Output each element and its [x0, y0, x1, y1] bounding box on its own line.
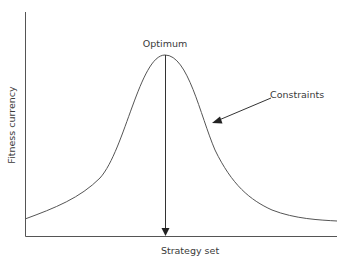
- constraints-label: Constraints: [270, 89, 324, 100]
- y-axis-label: Fitness currency: [6, 86, 17, 164]
- optimum-arrowhead-icon: [162, 228, 170, 236]
- constraints-arrow: [219, 98, 271, 120]
- x-axis-label: Strategy set: [161, 245, 220, 256]
- optimum-label: Optimum: [143, 38, 187, 49]
- fitness-curve: [25, 55, 337, 221]
- fitness-diagram: Optimum Constraints Strategy set Fitness…: [0, 0, 348, 264]
- constraints-arrowhead-icon: [212, 117, 223, 124]
